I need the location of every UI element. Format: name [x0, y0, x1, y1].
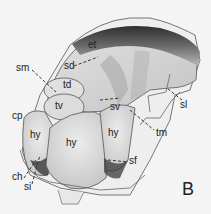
anatomical-figure: et sd sm td tv sv sl cp hy hy hy tm sf c…	[0, 0, 211, 214]
label-sm: sm	[16, 63, 29, 73]
label-et: et	[88, 40, 96, 50]
label-hy-left: hy	[30, 130, 41, 140]
label-tv: tv	[55, 101, 63, 111]
label-ch: ch	[12, 172, 23, 182]
label-cp: cp	[12, 111, 23, 121]
label-tm: tm	[156, 128, 167, 138]
label-sv: sv	[110, 102, 120, 112]
label-sd: sd	[64, 61, 75, 71]
label-hy-center: hy	[66, 138, 77, 148]
label-sl: sl	[180, 100, 187, 110]
label-si: si	[24, 182, 31, 192]
panel-label: B	[182, 180, 194, 198]
label-hy-right: hy	[108, 128, 119, 138]
label-sf: sf	[129, 156, 137, 166]
label-td: td	[63, 80, 71, 90]
